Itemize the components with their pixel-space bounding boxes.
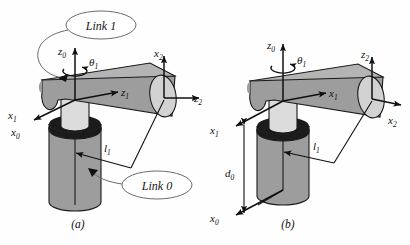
figure-canvas: z0 θ1 z1 x1 x0 x2 z2 l1 Link 1 Link 0 (a…: [0, 0, 410, 245]
label-x2: x2: [153, 47, 163, 62]
callout-label-link0: Link 0: [141, 179, 172, 193]
arm-near-end: [39, 80, 42, 92]
panel-a-link1-arm: [39, 63, 179, 119]
label-l1: l1: [104, 142, 111, 157]
robot-kinematics-figure: z0 θ1 z1 x1 x0 x2 z2 l1 Link 1 Link 0 (a…: [0, 0, 410, 245]
panel-a-callout-link0: [88, 168, 192, 199]
label-x1: x1: [7, 109, 17, 124]
label-x0: x0: [10, 126, 20, 141]
label-x2: x2: [387, 114, 397, 129]
label-x0: x0: [209, 212, 219, 227]
label-z0: z0: [57, 45, 66, 60]
label-d0: d0: [225, 167, 235, 182]
caption-panel-a: (a): [71, 218, 85, 231]
caption-panel-b: (b): [281, 218, 295, 231]
label-x1: x1: [209, 124, 219, 139]
panel-b: z0 θ1 x1 x1 x0 d0 z2 x2 l1 (b): [209, 39, 401, 231]
callout-label-link1: Link 1: [85, 19, 116, 33]
arm-near-end: [247, 81, 250, 93]
panel-a: z0 θ1 z1 x1 x0 x2 z2 l1 Link 1 Link 0 (a…: [7, 11, 202, 231]
label-theta1: θ1: [89, 56, 98, 71]
label-z0: z0: [266, 39, 275, 54]
label-l1: l1: [313, 140, 320, 155]
label-theta1: θ1: [297, 54, 306, 69]
label-z2: z2: [193, 92, 202, 107]
label-z2: z2: [360, 48, 369, 63]
